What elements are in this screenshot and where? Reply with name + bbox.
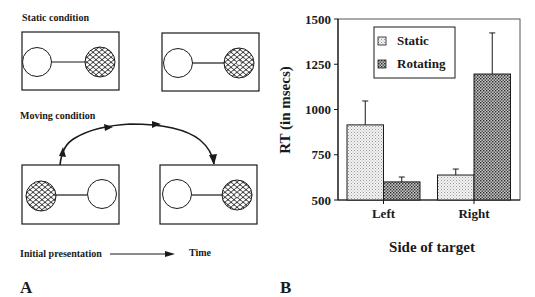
y-tick-label: 1250: [305, 57, 331, 72]
target-dot: [237, 61, 242, 66]
open-circle: [88, 180, 117, 209]
target-dot: [235, 193, 240, 198]
legend-rotating-label: Rotating: [397, 56, 446, 71]
figure: Static condition Moving condition: [0, 0, 535, 297]
arrowhead-icon: [209, 154, 217, 165]
bar-static-right: [438, 175, 475, 200]
panel-a: Static condition Moving condition: [20, 12, 259, 297]
legend-static-label: Static: [397, 33, 429, 48]
moving-display-target: [160, 165, 257, 224]
open-circle: [163, 180, 192, 209]
y-tick-label: 1500: [305, 12, 331, 27]
legend-static-swatch: [378, 37, 386, 45]
y-tick-label: 1000: [305, 102, 331, 117]
bar-rotating-right: [474, 74, 511, 200]
y-axis-ticks: 500750100012501500: [305, 12, 338, 208]
arrowhead-icon: [104, 124, 113, 131]
bar-static-left: [347, 125, 384, 200]
y-axis-label: RT (in msecs): [277, 66, 294, 154]
timeline-start-label: Initial presentation: [20, 248, 102, 259]
hatched-circle: [85, 47, 115, 77]
panel-a-label: A: [20, 278, 33, 297]
arrowhead-icon: [152, 121, 161, 128]
timeline-end-label: Time: [189, 247, 212, 258]
static-condition-title: Static condition: [22, 12, 89, 23]
x-tick-label: Left: [372, 206, 396, 221]
open-circle: [164, 49, 193, 78]
panel-b-label: B: [280, 278, 291, 297]
x-axis-label: Side of target: [389, 239, 475, 255]
static-display-target: [162, 33, 259, 91]
y-tick-label: 500: [312, 193, 332, 208]
hatched-circle: [26, 181, 56, 211]
x-axis-ticks: LeftRight: [372, 200, 490, 221]
bar-rotating-left: [384, 182, 421, 200]
legend: Static Rotating: [374, 27, 455, 78]
motion-arc: [59, 121, 217, 165]
x-tick-label: Right: [458, 206, 490, 221]
moving-condition-title: Moving condition: [20, 110, 96, 121]
y-tick-label: 750: [312, 147, 332, 162]
panel-b-chart: 500750100012501500 LeftRight Static Rota…: [277, 12, 520, 297]
static-display-initial: [22, 32, 119, 90]
open-circle: [23, 48, 52, 77]
legend-rotating-swatch: [378, 60, 386, 68]
moving-display-initial: [22, 165, 119, 224]
